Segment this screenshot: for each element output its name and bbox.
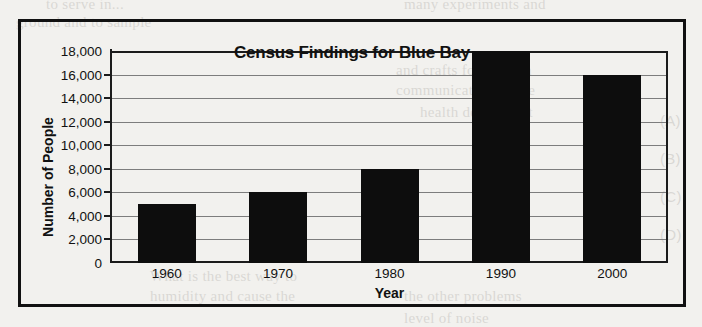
y-axis-title-label: Number of People xyxy=(40,117,56,237)
x-axis-title: Year xyxy=(111,285,668,301)
y-axis-tick-label: 0 xyxy=(94,256,102,271)
plot-area: 02,0004,0006,0008,00010,00012,00014,0001… xyxy=(111,51,668,263)
y-axis-tick-label: 10,000 xyxy=(61,138,102,153)
bleed-text-line: many experiments and xyxy=(404,0,546,13)
y-axis-tick-label: 8,000 xyxy=(68,161,102,176)
bar-2000 xyxy=(583,75,641,263)
bar-chart: Census Findings for Blue Bay Number of P… xyxy=(21,22,683,304)
y-axis-tick-label: 6,000 xyxy=(68,185,102,200)
y-axis-tick-label: 16,000 xyxy=(61,67,102,82)
bar-1980 xyxy=(361,169,419,263)
x-axis-tick-label: 1960 xyxy=(152,266,182,281)
chart-figure-frame: Census Findings for Blue Bay Number of P… xyxy=(18,19,686,307)
y-axis-title: Number of People xyxy=(39,71,57,282)
chart-title: Census Findings for Blue Bay xyxy=(21,43,683,63)
x-axis-tick-label: 1970 xyxy=(263,266,293,281)
y-axis-tick-label: 12,000 xyxy=(61,114,102,129)
bars-layer xyxy=(111,51,668,263)
x-axis-tick-label: 2000 xyxy=(597,266,627,281)
x-axis-tick-label: 1980 xyxy=(374,266,404,281)
bleed-text-line: level of noise xyxy=(404,310,489,327)
y-axis-tick-label: 14,000 xyxy=(61,91,102,106)
bleed-text-line: to serve in... xyxy=(46,0,124,13)
x-axis-tick-label: 1990 xyxy=(486,266,516,281)
x-axis-tick-labels: 19601970198019902000 xyxy=(111,266,668,286)
bar-1990 xyxy=(472,51,530,263)
bar-1970 xyxy=(249,192,307,263)
y-axis-tick-label: 4,000 xyxy=(68,208,102,223)
bar-1960 xyxy=(138,204,196,263)
y-axis-tick-label: 2,000 xyxy=(68,232,102,247)
